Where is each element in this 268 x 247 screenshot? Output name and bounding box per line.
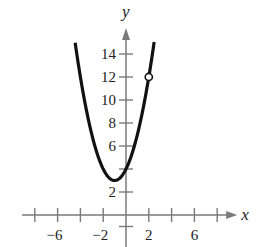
y-tick-label: 10 (101, 92, 116, 108)
x-axis-label: x (240, 205, 249, 224)
x-tick-label: 2 (145, 227, 153, 243)
axes: −6−226 268101214 x y (22, 2, 249, 247)
x-tick-label: 6 (191, 227, 199, 243)
y-axis-label: y (120, 2, 130, 21)
y-tick-label: 6 (109, 138, 117, 154)
parabola-curve (75, 42, 154, 180)
y-tick-label: 12 (101, 69, 116, 85)
y-tick-label: 2 (109, 184, 117, 200)
y-tick-label: 14 (101, 46, 117, 62)
x-axis-arrow-icon (226, 211, 237, 219)
y-tick-label: 8 (109, 115, 117, 131)
open-circle-marker (145, 73, 152, 80)
x-tick-label: −6 (47, 227, 63, 243)
y-axis-arrow-icon (122, 28, 130, 40)
x-tick-label: −2 (92, 227, 108, 243)
x-tick-labels: −6−226 (47, 227, 199, 243)
function-graph: −6−226 268101214 x y (0, 0, 268, 247)
